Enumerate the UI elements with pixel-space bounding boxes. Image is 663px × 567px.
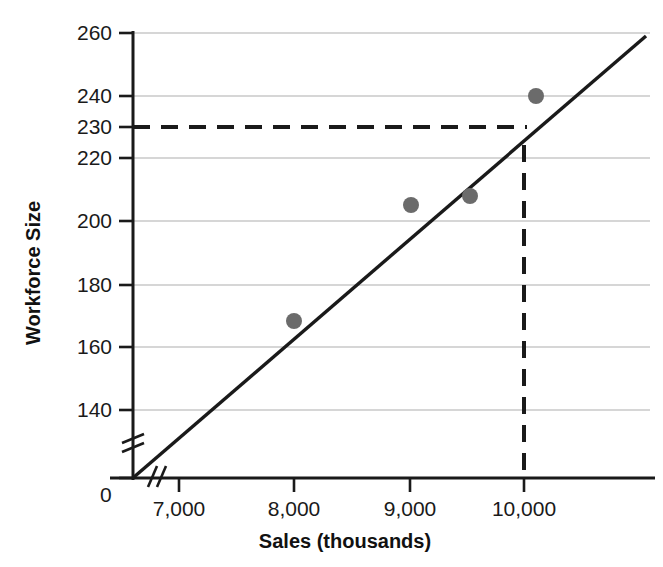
y-tick-marks (119, 33, 133, 478)
y-tick-label-240: 240 (77, 84, 112, 108)
data-points (286, 88, 544, 329)
data-point (286, 313, 302, 329)
data-point (528, 88, 544, 104)
regression-line (134, 36, 646, 477)
x-axis-title: Sales (thousands) (259, 530, 431, 553)
data-point (462, 188, 478, 204)
y-tick-label-230: 230 (77, 115, 112, 139)
y-tick-label-140: 140 (77, 398, 112, 422)
x-tick-marks (179, 478, 524, 492)
y-origin-label: 0 (100, 483, 112, 507)
y-tick-label-260: 260 (77, 21, 112, 45)
x-tick-label-9000: 9,000 (384, 497, 437, 521)
scatter-chart: 260 240 230 220 200 180 160 140 0 7,000 … (0, 0, 663, 567)
x-tick-label-10000: 10,000 (492, 497, 556, 521)
y-axis-title: Workforce Size (22, 201, 45, 345)
y-tick-label-160: 160 (77, 335, 112, 359)
x-tick-label-7000: 7,000 (153, 497, 206, 521)
y-tick-label-220: 220 (77, 146, 112, 170)
data-point (403, 197, 419, 213)
x-tick-label-8000: 8,000 (268, 497, 321, 521)
gridlines (133, 33, 650, 410)
y-tick-label-180: 180 (77, 273, 112, 297)
y-tick-label-200: 200 (77, 209, 112, 233)
